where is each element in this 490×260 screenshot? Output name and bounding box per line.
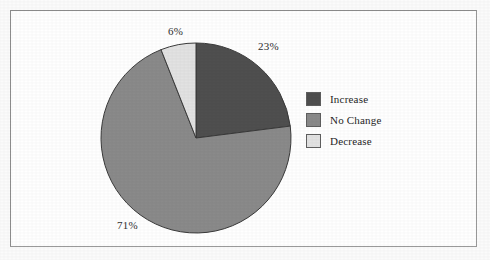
- pie-chart-figure: 6% 23% 71% Increase No Change Decrease: [0, 0, 490, 260]
- chart-legend: Increase No Change Decrease: [306, 88, 436, 151]
- legend-swatch-no-change: [306, 113, 321, 127]
- pie-slice-group: [101, 43, 291, 233]
- legend-swatch-decrease: [306, 134, 321, 148]
- legend-swatch-increase: [306, 92, 321, 106]
- data-label-no-change: 71%: [117, 219, 138, 231]
- legend-item-decrease[interactable]: Decrease: [306, 130, 436, 151]
- legend-item-increase[interactable]: Increase: [306, 88, 436, 109]
- legend-label-no-change: No Change: [330, 114, 382, 126]
- legend-label-decrease: Decrease: [330, 135, 372, 147]
- pie-slice-increase[interactable]: [196, 43, 290, 138]
- legend-item-no-change[interactable]: No Change: [306, 109, 436, 130]
- data-label-increase: 23%: [258, 40, 279, 52]
- legend-label-increase: Increase: [330, 93, 368, 105]
- data-label-decrease: 6%: [168, 25, 183, 37]
